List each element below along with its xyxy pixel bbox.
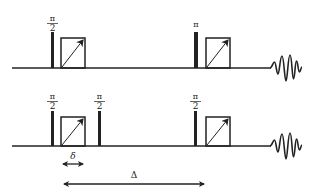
gradient-pulse-2 <box>206 38 230 68</box>
arrow-icon <box>207 119 228 145</box>
arrow-icon <box>207 40 228 67</box>
pulse-pi-half-3: π 2 <box>190 92 201 146</box>
gradient-pulse-2 <box>206 117 230 146</box>
gradient-pulse-1 <box>61 38 85 68</box>
fid-signal-icon <box>270 133 302 159</box>
pulse-pi-half-2: π 2 <box>94 92 105 146</box>
sequence-top: π 2 π <box>12 14 302 81</box>
delta-small-label: δ <box>70 151 75 161</box>
pulse-label-num: π <box>193 92 198 101</box>
pulse-label-num: π <box>50 92 55 101</box>
pulse-pi-half-1: π 2 <box>47 92 58 146</box>
gradient-pulse-1 <box>61 117 85 146</box>
arrow-icon <box>62 119 83 145</box>
delta-big-label: Δ <box>131 170 138 180</box>
pulse-label-den: 2 <box>193 101 199 111</box>
pulse-pi-half-1: π 2 <box>47 14 58 68</box>
pulse-label-num: π <box>50 14 55 23</box>
pulse-label-den: 2 <box>50 23 56 33</box>
arrow-icon <box>62 40 83 67</box>
fid-signal-icon <box>270 55 302 81</box>
sequence-bottom: π 2 π 2 π 2 <box>12 92 302 184</box>
pulse-label-num: π <box>97 92 102 101</box>
pulse-pi: π <box>193 20 198 68</box>
pulse-label-num: π <box>193 20 198 29</box>
delta-big-annotation: Δ <box>64 170 204 184</box>
pulse-label-den: 2 <box>97 101 103 111</box>
delta-small-annotation: δ <box>63 151 83 164</box>
pulse-label-den: 2 <box>50 101 56 111</box>
pulse-sequence-diagram: π 2 π π 2 <box>0 0 311 195</box>
